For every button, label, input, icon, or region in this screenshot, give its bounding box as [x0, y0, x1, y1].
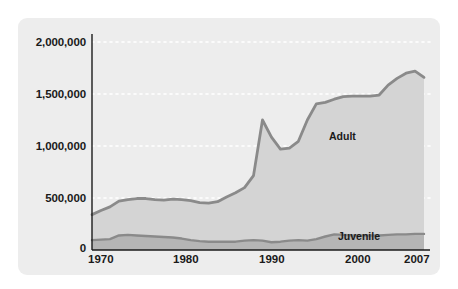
ytick-label-500000: 500,000: [14, 192, 86, 204]
ytick-label-1500000: 1,500,000: [14, 88, 86, 100]
xtick-label-1990: 1990: [259, 253, 285, 265]
ytick-label-0: 0: [14, 242, 86, 254]
xtick-label-1980: 1980: [173, 253, 199, 265]
area-adult: [92, 71, 424, 250]
chart-figure: 2,000,000 1,500,000 1,000,000 500,000 0 …: [0, 0, 458, 289]
xtick-label-1970: 1970: [88, 253, 114, 265]
ytick-label-1000000: 1,000,000: [14, 140, 86, 152]
ytick-label-2000000: 2,000,000: [14, 36, 86, 48]
xtick-label-2007: 2007: [404, 253, 430, 265]
series-label-adult: Adult: [329, 130, 356, 142]
xtick-label-2000: 2000: [345, 253, 371, 265]
series-label-juvenile: Juvenile: [338, 230, 380, 242]
